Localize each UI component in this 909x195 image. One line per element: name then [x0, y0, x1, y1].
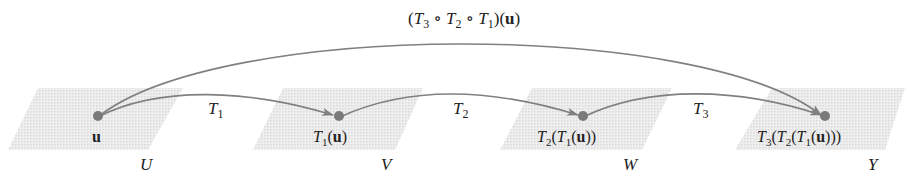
space-Y: Y	[868, 155, 879, 174]
label-T3: T3	[693, 99, 708, 121]
point-T3T2T1u	[820, 111, 830, 121]
space-U: U	[140, 155, 154, 174]
label-T2: T2	[453, 99, 468, 121]
point-T1u	[334, 111, 344, 121]
point-T2T1u	[578, 111, 588, 121]
point-u	[93, 111, 103, 121]
label-T1: T1	[208, 99, 223, 121]
composite-label: (T3 ∘ T2 ∘ T1)(u)	[408, 9, 520, 31]
composition-diagram: (T3 ∘ T2 ∘ T1)(u) T1 T2 T3 u T1(u) T2(T1…	[0, 0, 909, 195]
label-u: u	[92, 128, 101, 145]
space-V: V	[381, 155, 394, 174]
space-W: W	[623, 155, 639, 174]
